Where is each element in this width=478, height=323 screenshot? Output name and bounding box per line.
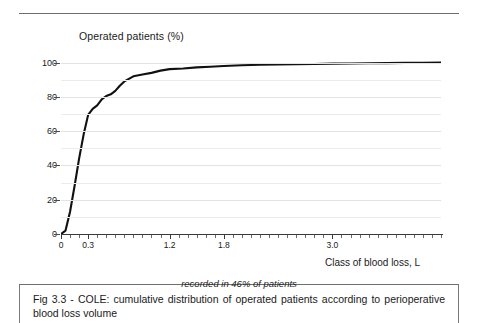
y-tick-mark — [54, 131, 60, 132]
figure-frame: Operated patients (%) 100806040200 00.31… — [19, 13, 459, 285]
x-tick-minor — [341, 235, 342, 238]
x-tick-major — [61, 235, 62, 239]
x-tick-label: 1.8 — [218, 240, 230, 250]
x-tick-minor — [215, 235, 216, 238]
x-tick-minor — [396, 235, 397, 238]
gridline-minor — [61, 80, 441, 81]
x-tick-minor — [97, 235, 98, 238]
x-tick-minor — [260, 235, 261, 238]
x-tick-minor — [115, 235, 116, 238]
x-tick-minor — [161, 235, 162, 238]
x-tick-minor — [351, 235, 352, 238]
x-tick-minor — [432, 235, 433, 238]
x-tick-minor — [124, 235, 125, 238]
x-tick-label: 1.2 — [164, 240, 176, 250]
gridline-minor — [61, 148, 441, 149]
x-tick-minor — [287, 235, 288, 238]
x-tick-minor — [305, 235, 306, 238]
x-tick-minor — [314, 235, 315, 238]
x-tick-minor — [387, 235, 388, 238]
x-tick-label: 0.3 — [82, 240, 94, 250]
y-tick-mark — [54, 200, 60, 201]
gridline-major — [61, 97, 441, 98]
x-tick-minor — [423, 235, 424, 238]
x-tick-label: 3.0 — [327, 240, 339, 250]
x-tick-minor — [151, 235, 152, 238]
x-tick-minor — [206, 235, 207, 238]
gridline-minor — [61, 183, 441, 184]
x-tick-major — [88, 235, 89, 239]
x-tick-minor — [414, 235, 415, 238]
figure-caption: Fig 3.3 - COLE: cumulative distribution … — [33, 292, 445, 320]
x-tick-minor — [369, 235, 370, 238]
x-tick-minor — [405, 235, 406, 238]
y-tick-mark — [54, 97, 60, 98]
x-tick-minor — [142, 235, 143, 238]
x-axis-title: Class of blood loss, L — [325, 257, 420, 268]
gridline-major — [61, 63, 441, 64]
x-tick-minor — [278, 235, 279, 238]
gridline-minor — [61, 217, 441, 218]
chart-subnote: recorded in 46% of patients — [19, 278, 459, 289]
x-tick-label: 0 — [59, 240, 64, 250]
x-tick-minor — [188, 235, 189, 238]
gridline-major — [61, 165, 441, 166]
y-tick-mark — [54, 63, 60, 64]
gridline-minor — [61, 114, 441, 115]
y-tick-mark — [54, 234, 60, 235]
x-tick-minor — [70, 235, 71, 238]
x-tick-major — [170, 235, 171, 239]
x-tick-minor — [441, 235, 442, 238]
x-tick-minor — [360, 235, 361, 238]
x-tick-minor — [378, 235, 379, 238]
y-axis-title: Operated patients (%) — [79, 30, 184, 42]
x-tick-minor — [133, 235, 134, 238]
x-tick-minor — [106, 235, 107, 238]
cumulative-distribution-curve — [61, 54, 441, 234]
x-tick-minor — [197, 235, 198, 238]
x-axis-line — [61, 234, 443, 235]
x-tick-minor — [296, 235, 297, 238]
x-tick-minor — [233, 235, 234, 238]
x-tick-minor — [251, 235, 252, 238]
x-tick-minor — [79, 235, 80, 238]
chart-area: Operated patients (%) 100806040200 00.31… — [19, 14, 459, 286]
y-tick-mark — [54, 165, 60, 166]
plot-region: 100806040200 00.31.21.83.0 — [61, 54, 441, 234]
gridline-major — [61, 200, 441, 201]
x-tick-minor — [242, 235, 243, 238]
x-tick-major — [224, 235, 225, 239]
x-tick-minor — [323, 235, 324, 238]
x-tick-major — [332, 235, 333, 239]
x-tick-minor — [179, 235, 180, 238]
x-tick-minor — [269, 235, 270, 238]
gridline-major — [61, 131, 441, 132]
